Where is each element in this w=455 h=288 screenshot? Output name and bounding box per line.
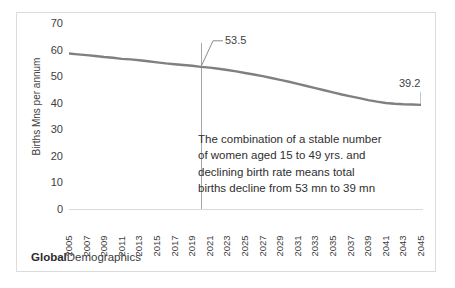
y-tick-70: 70 [37, 18, 63, 29]
y-tick-60: 60 [37, 45, 63, 56]
x-tick-2015: 2015 [152, 235, 162, 256]
x-axis-tick-labels: 2005200720092011201320152017201920212023… [69, 212, 421, 256]
x-tick-2039: 2039 [363, 235, 373, 256]
brand-logo: GlobalDemographics [31, 251, 141, 263]
y-tick-0: 0 [37, 204, 63, 215]
x-tick-2037: 2037 [345, 235, 355, 256]
x-tick-2019: 2019 [187, 235, 197, 256]
annotation-line-4: births decline from 53 mn to 39 mn [198, 180, 422, 196]
annotation-line-2: of women aged 15 to 49 yrs. and [198, 147, 422, 163]
chart-card: Births Mns per annum 706050403020100 53.… [16, 12, 436, 272]
x-tick-2043: 2043 [398, 235, 408, 256]
y-tick-20: 20 [37, 151, 63, 162]
x-tick-2017: 2017 [169, 235, 179, 256]
x-tick-2035: 2035 [328, 235, 338, 256]
data-label-39-2: 39.2 [399, 77, 420, 89]
x-tick-2033: 2033 [310, 235, 320, 256]
brand-logo-bold: Global [31, 251, 67, 263]
x-tick-2025: 2025 [240, 235, 250, 256]
leader-line-53 [201, 41, 223, 67]
annotation-line-1: The combination of a stable number [198, 131, 422, 147]
x-tick-2031: 2031 [292, 235, 302, 256]
x-tick-2023: 2023 [222, 235, 232, 256]
annotation-textbox: The combination of a stable number of wo… [198, 131, 422, 196]
y-tick-50: 50 [37, 71, 63, 82]
x-tick-2027: 2027 [257, 235, 267, 256]
x-tick-2021: 2021 [204, 235, 214, 256]
data-label-53-5: 53.5 [225, 34, 246, 46]
y-tick-30: 30 [37, 124, 63, 135]
x-axis-baseline [69, 209, 423, 210]
x-tick-2029: 2029 [275, 235, 285, 256]
y-tick-40: 40 [37, 98, 63, 109]
annotation-line-3: declining birth rate means total [198, 164, 422, 180]
brand-logo-regular: Demographics [67, 251, 141, 263]
y-tick-10: 10 [37, 177, 63, 188]
x-tick-2045: 2045 [416, 235, 426, 256]
x-tick-2041: 2041 [380, 235, 390, 256]
